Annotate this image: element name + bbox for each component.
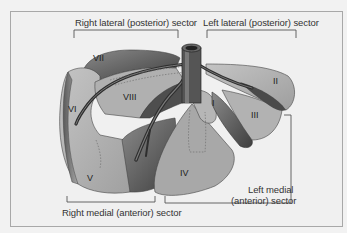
segment-label-vii: VII xyxy=(93,53,104,63)
segment-label-iv: IV xyxy=(180,168,189,178)
label-left-medial-line1: Left medial xyxy=(248,184,288,195)
bracket-right-medial xyxy=(67,196,155,202)
bracket-right-lateral xyxy=(74,30,178,38)
label-right-lateral-sector: Right lateral (posterior) sector xyxy=(75,17,197,28)
bracket-left-lateral xyxy=(207,30,296,38)
segment-label-i: I xyxy=(212,98,215,108)
label-right-medial-sector: Right medial (anterior) sector xyxy=(62,207,182,218)
segment-label-v: V xyxy=(87,173,93,183)
segment-label-viii: VIII xyxy=(123,92,137,102)
label-left-medial-line2: (anterior) sector xyxy=(231,195,288,206)
segment-label-iii: III xyxy=(251,110,259,120)
segment-label-ii: II xyxy=(273,76,278,86)
segment-label-vi: VI xyxy=(68,104,77,114)
label-left-lateral-sector: Left lateral (posterior) sector xyxy=(203,17,319,28)
inferior-vena-cava-icon xyxy=(182,44,201,103)
